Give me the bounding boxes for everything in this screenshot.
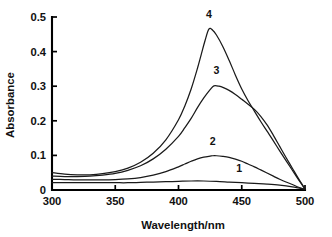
spectrum-curve-4 bbox=[52, 28, 305, 189]
curve-label-2: 2 bbox=[210, 135, 216, 147]
y-tick-label-3: 0.3 bbox=[30, 80, 46, 92]
x-axis-title: Wavelength/nm bbox=[141, 219, 225, 231]
x-tick-label-0: 300 bbox=[43, 195, 62, 207]
y-tick-label-4: 0.4 bbox=[30, 46, 46, 58]
chart-canvas: 00.10.20.30.40.5 300350400450500 4321 Wa… bbox=[0, 0, 332, 237]
spectra-curves bbox=[52, 28, 305, 189]
absorbance-spectra-figure: 00.10.20.30.40.5 300350400450500 4321 Wa… bbox=[0, 0, 332, 237]
y-axis-tick-labels: 00.10.20.30.40.5 bbox=[30, 11, 46, 196]
y-tick-label-5: 0.5 bbox=[30, 11, 46, 23]
curve-number-labels: 4321 bbox=[206, 8, 242, 174]
y-tick-label-2: 0.2 bbox=[30, 115, 46, 127]
x-tick-label-3: 450 bbox=[232, 195, 251, 207]
curve-label-1: 1 bbox=[236, 162, 242, 174]
y-axis-title: Absorbance bbox=[4, 72, 16, 138]
x-axis-tick-labels: 300350400450500 bbox=[43, 195, 315, 207]
axis-ticks bbox=[52, 17, 305, 190]
curve-label-3: 3 bbox=[213, 64, 219, 76]
x-tick-label-1: 350 bbox=[106, 195, 125, 207]
axis-spines bbox=[52, 17, 305, 190]
x-tick-label-2: 400 bbox=[169, 195, 188, 207]
curve-label-4: 4 bbox=[206, 8, 212, 20]
y-tick-label-1: 0.1 bbox=[30, 149, 46, 161]
x-tick-label-4: 500 bbox=[296, 195, 315, 207]
axes bbox=[52, 17, 305, 190]
